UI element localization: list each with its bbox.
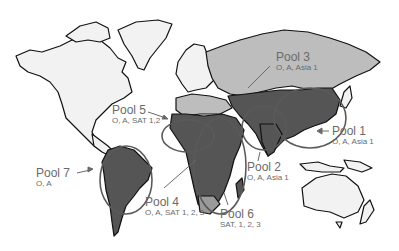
- pool1-serotypes: O, A, Asia 1: [332, 138, 374, 146]
- indonesia: [300, 162, 344, 172]
- pool5-name: Pool 5: [112, 104, 160, 116]
- pool5-arrowhead: [162, 115, 168, 119]
- pool3-serotypes: O, A, Asia 1: [276, 64, 318, 72]
- pool4-serotypes: O, A, SAT 1, 2, 3: [145, 209, 204, 217]
- pool5-serotypes: O, A, SAT 1,2: [112, 117, 160, 125]
- pool5-label: Pool 5 O, A, SAT 1,2: [112, 104, 160, 125]
- pool2-label: Pool 2 O, A, Asia 1: [247, 161, 289, 182]
- pool4-label: Pool 4 O, A, SAT 1, 2, 3: [145, 196, 204, 217]
- new-guinea: [344, 160, 372, 172]
- pool7-serotypes: O, A: [36, 180, 70, 188]
- australia: [302, 174, 364, 218]
- pool1-arrowhead: [317, 128, 322, 134]
- pool6-serotypes: SAT, 1, 2, 3: [220, 221, 261, 229]
- tasmania: [336, 222, 342, 228]
- pool6-name: Pool 6: [220, 208, 261, 220]
- pool3-label: Pool 3 O, A, Asia 1: [276, 51, 318, 72]
- north-africa: [176, 94, 232, 116]
- india: [260, 124, 282, 156]
- pool6-leader: [224, 193, 228, 205]
- pool2-serotypes: O, A, Asia 1: [247, 174, 289, 182]
- south-america: [102, 146, 152, 236]
- pool7-arrowhead: [88, 167, 93, 172]
- pool4-name: Pool 4: [145, 196, 204, 208]
- pool7-label: Pool 7 O, A: [36, 167, 70, 188]
- pool3-name: Pool 3: [276, 51, 318, 63]
- pool1-name: Pool 1: [332, 125, 374, 137]
- arctic-islands: [66, 22, 110, 42]
- pool2-name: Pool 2: [247, 161, 289, 173]
- north-america: [16, 36, 132, 152]
- pool6-label: Pool 6 SAT, 1, 2, 3: [220, 208, 261, 229]
- pool7-name: Pool 7: [36, 167, 70, 179]
- pool1-label: Pool 1 O, A, Asia 1: [332, 125, 374, 146]
